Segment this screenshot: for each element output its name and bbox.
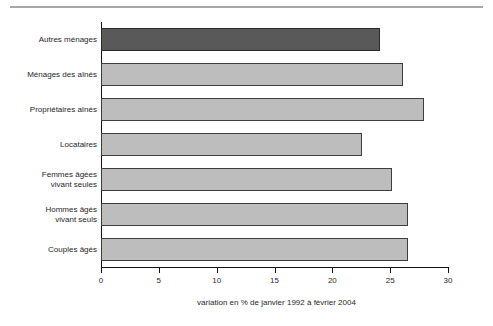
bar-rect — [101, 98, 424, 121]
x-tick-label-25: 25 — [375, 276, 405, 286]
category-label-3: Propriétaires aînés — [3, 105, 97, 115]
bar-7 — [101, 238, 408, 261]
bar-rect — [101, 203, 408, 226]
bar-rect — [101, 238, 408, 261]
bar-3 — [101, 98, 424, 121]
chart-figure: Autres ménagesMénages des aînésPropriéta… — [0, 0, 493, 326]
x-tick-label-15: 15 — [260, 276, 290, 286]
bar-2 — [101, 63, 403, 86]
bar-1 — [101, 28, 380, 51]
x-tick-label-5: 5 — [144, 276, 174, 286]
x-tick-label-0: 0 — [86, 276, 116, 286]
bar-rect — [101, 63, 403, 86]
bar-rect — [101, 28, 380, 51]
bar-5 — [101, 168, 392, 191]
x-tick-0 — [101, 268, 102, 273]
x-tick-label-30: 30 — [433, 276, 463, 286]
bar-rect — [101, 168, 392, 191]
bar-rect — [101, 133, 362, 156]
x-tick-15 — [275, 268, 276, 273]
category-label-6: Hommes âgés vivant seuls — [3, 205, 97, 225]
category-label-2: Ménages des aînés — [3, 70, 97, 80]
category-label-4: Locataires — [3, 140, 97, 150]
x-tick-20 — [332, 268, 333, 273]
x-tick-label-10: 10 — [202, 276, 232, 286]
bar-6 — [101, 203, 408, 226]
x-tick-25 — [390, 268, 391, 273]
bar-4 — [101, 133, 362, 156]
category-label-1: Autres ménages — [3, 35, 97, 45]
top-divider-rule — [10, 6, 483, 8]
x-axis-caption-text: variation en % de janvier 1992 à février… — [137, 298, 356, 308]
bars-plot-area — [101, 22, 448, 267]
category-labels-group: Autres ménagesMénages des aînésPropriéta… — [0, 22, 97, 267]
category-label-7: Couples âgés — [3, 245, 97, 255]
x-tick-10 — [217, 268, 218, 273]
x-tick-label-20: 20 — [317, 276, 347, 286]
x-tick-5 — [159, 268, 160, 273]
x-axis-caption: variation en % de janvier 1992 à février… — [0, 298, 493, 308]
x-tick-30 — [448, 268, 449, 273]
category-label-5: Femmes âgées vivant seules — [3, 170, 97, 190]
clipped-title-text — [70, 0, 110, 5]
